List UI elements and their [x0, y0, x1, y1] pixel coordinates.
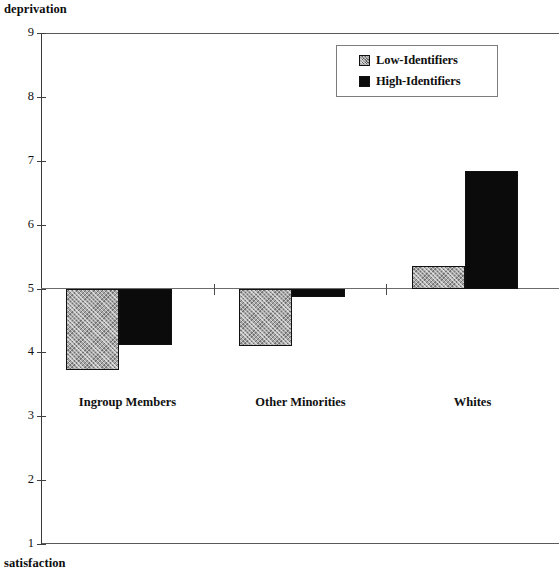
y-axis-tick-labels: 987654321 — [0, 33, 34, 544]
plot-top-border — [41, 33, 559, 34]
plot-bottom-border — [41, 543, 559, 544]
bar-whites-high-identifiers — [465, 171, 518, 289]
y-axis-tick-label-7: 7 — [8, 154, 34, 167]
bottom-axis-label: satisfaction — [4, 556, 66, 571]
y-axis-tick-label-5: 5 — [8, 282, 34, 295]
legend-swatch-low-identifiers-icon — [359, 55, 370, 66]
category-separator-tick-2 — [386, 284, 387, 295]
y-axis-tick-8 — [37, 97, 46, 98]
y-axis-tick-5 — [37, 289, 46, 290]
y-axis-tick-7 — [37, 161, 46, 162]
legend-swatch-high-identifiers-icon — [359, 76, 370, 87]
category-label-whites: Whites — [386, 395, 559, 410]
category-label-ingroup-members: Ingroup Members — [41, 395, 214, 410]
legend-label-high-identifiers: High-Identifiers — [376, 74, 461, 89]
category-label-other-minorities: Other Minorities — [214, 395, 387, 410]
legend-item-high-identifiers: High-Identifiers — [359, 74, 461, 89]
top-axis-label: deprivation — [4, 2, 67, 17]
y-axis-tick-2 — [37, 480, 46, 481]
y-axis-tick-label-4: 4 — [8, 345, 34, 358]
chart-legend: Low-Identifiers High-Identifiers — [336, 45, 498, 97]
y-axis-tick-label-3: 3 — [8, 409, 34, 422]
category-separator-tick-1 — [214, 284, 215, 295]
bar-other-minorities-high-identifiers — [292, 289, 345, 297]
y-axis-tick-label-2: 2 — [8, 473, 34, 486]
plot-area: Ingroup MembersOther MinoritiesWhites — [41, 33, 559, 544]
y-axis-tick-9 — [37, 33, 46, 34]
bar-ingroup-members-low-identifiers — [66, 289, 119, 370]
legend-label-low-identifiers: Low-Identifiers — [376, 53, 458, 68]
y-axis-tick-6 — [37, 225, 46, 226]
bar-whites-low-identifiers — [412, 266, 465, 289]
bar-ingroup-members-high-identifiers — [119, 289, 172, 345]
bar-other-minorities-low-identifiers — [239, 289, 292, 346]
y-axis-tick-1 — [37, 544, 46, 545]
y-axis-tick-label-1: 1 — [8, 537, 34, 550]
y-axis-tick-label-9: 9 — [8, 26, 34, 39]
y-axis-tick-4 — [37, 352, 46, 353]
y-axis-tick-3 — [37, 416, 46, 417]
y-axis-tick-label-8: 8 — [8, 90, 34, 103]
legend-item-low-identifiers: Low-Identifiers — [359, 53, 458, 68]
y-axis-tick-label-6: 6 — [8, 218, 34, 231]
